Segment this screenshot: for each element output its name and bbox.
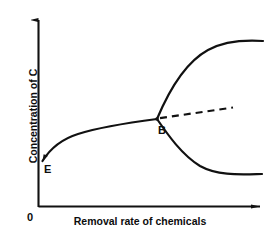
curve-lower-branch <box>157 119 262 174</box>
curve-upper-branch <box>157 41 263 119</box>
bifurcation-diagram-figure: Removal rate of chemicals Concentration … <box>0 0 280 245</box>
point-label-b: B <box>158 124 166 136</box>
x-axis-title: Removal rate of chemicals <box>0 215 280 227</box>
point-b-marker <box>155 117 159 121</box>
curve-main-branch-e-to-b <box>43 119 158 161</box>
point-label-e: E <box>44 163 51 175</box>
y-axis-title: Concentration of C <box>27 36 39 196</box>
origin-label: 0 <box>27 211 33 223</box>
curve-unstable-dashed-branch <box>160 108 233 119</box>
plot-area <box>0 0 280 245</box>
